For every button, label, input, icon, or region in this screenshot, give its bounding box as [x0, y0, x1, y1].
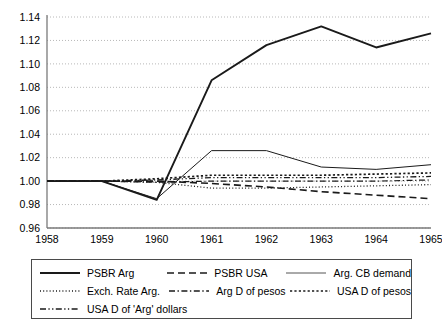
legend-line-swatch-icon	[288, 286, 332, 296]
y-tick-label: 1.10	[20, 58, 41, 70]
legend-line-swatch-icon	[38, 304, 82, 314]
y-tick-label: 1.14	[20, 11, 41, 23]
legend-item[interactable]: PSBR Arg	[32, 268, 165, 279]
series-line	[47, 181, 431, 199]
legend-item[interactable]: Arg D of pesos	[167, 286, 288, 297]
line-chart: 0.960.981.001.021.041.061.081.101.121.14…	[0, 0, 442, 252]
x-tick-label: 1958	[35, 233, 59, 245]
legend-label: PSBR Arg	[82, 268, 134, 279]
x-tick-label: 1962	[255, 233, 279, 245]
legend-item[interactable]: Exch. Rate Arg.	[32, 286, 167, 297]
y-tick-label: 1.00	[20, 175, 41, 187]
legend-item[interactable]: PSBR USA	[165, 268, 284, 279]
legend-line-swatch-icon	[167, 286, 211, 296]
legend-line-swatch-icon	[38, 286, 82, 296]
legend-row: PSBR ArgPSBR USAArg. CB demand	[32, 264, 411, 282]
y-axis-tick-labels: 0.960.981.001.021.041.061.081.101.121.14	[20, 11, 41, 234]
y-tick-label: 1.06	[20, 104, 41, 116]
x-tick-label: 1960	[145, 233, 169, 245]
gridlines	[47, 17, 431, 228]
legend-line-swatch-icon	[38, 268, 82, 278]
chart-page: 0.960.981.001.021.041.061.081.101.121.14…	[0, 0, 442, 330]
y-tick-label: 0.96	[20, 222, 41, 234]
legend-line-swatch-icon	[165, 268, 209, 278]
legend-item[interactable]: USA D of 'Arg' dollars	[32, 304, 177, 315]
x-tick-label: 1961	[200, 233, 224, 245]
legend-label: Arg D of pesos	[211, 286, 285, 297]
data-series-group	[47, 26, 431, 199]
legend-row: Exch. Rate Arg.Arg D of pesosUSA D of pe…	[32, 282, 411, 300]
y-tick-label: 1.02	[20, 151, 41, 163]
y-tick-label: 1.08	[20, 81, 41, 93]
legend-label: USA D of 'Arg' dollars	[82, 304, 187, 315]
x-tick-label: 1959	[90, 233, 114, 245]
legend-row: USA D of 'Arg' dollars	[32, 300, 411, 318]
chart-legend: PSBR ArgPSBR USAArg. CB demandExch. Rate…	[31, 259, 412, 319]
x-tick-label: 1965	[419, 233, 442, 245]
legend-item[interactable]: USA D of pesos	[288, 286, 411, 297]
x-axis-tick-labels: 19581959196019611962196319641965	[35, 233, 442, 245]
legend-item[interactable]: Arg. CB demand	[284, 268, 411, 279]
y-tick-label: 0.98	[20, 198, 41, 210]
legend-label: Arg. CB demand	[328, 268, 411, 279]
plot-area: 0.960.981.001.021.041.061.081.101.121.14…	[0, 0, 442, 252]
x-tick-label: 1963	[310, 233, 334, 245]
y-tick-label: 1.04	[20, 128, 41, 140]
legend-label: USA D of pesos	[332, 286, 411, 297]
legend-label: PSBR USA	[209, 268, 267, 279]
x-tick-label: 1964	[364, 233, 388, 245]
legend-label: Exch. Rate Arg.	[82, 286, 160, 297]
y-tick-label: 1.12	[20, 34, 41, 46]
legend-line-swatch-icon	[284, 268, 328, 278]
